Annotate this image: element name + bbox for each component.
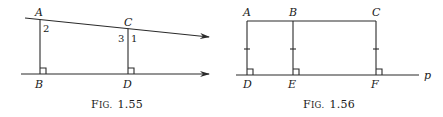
point-label-d: D — [122, 78, 132, 91]
right-angle-mark-d — [247, 69, 253, 75]
angle-label-3: 3 — [118, 33, 124, 44]
right-angle-mark-b — [40, 68, 46, 74]
point-label-f: F — [370, 78, 379, 91]
right-angle-mark-e — [293, 69, 299, 75]
figure-caption-1-56: FIG.1.56 — [303, 98, 355, 111]
figure-1-55: A 2 C 3 1 B D FIG.1.55 — [21, 6, 209, 111]
angle-label-2: 2 — [43, 23, 49, 34]
figure-caption-1-55: FIG.1.55 — [91, 98, 143, 111]
point-label-c: C — [372, 6, 381, 19]
line-label-p: p — [424, 69, 431, 82]
point-label-b: B — [288, 6, 297, 19]
point-label-a: A — [242, 6, 251, 19]
point-label-b: B — [34, 78, 43, 91]
point-label-e: E — [287, 78, 296, 91]
right-angle-mark-f — [376, 69, 382, 75]
transversal-line-ac — [25, 18, 209, 37]
point-label-d: D — [242, 78, 252, 91]
right-angle-mark-d — [128, 68, 134, 74]
point-label-a: A — [34, 6, 43, 19]
figure-1-56: A B C D E F p FIG.1.56 — [236, 6, 431, 111]
figures-canvas: A 2 C 3 1 B D FIG.1.55 A B C D E F p FIG… — [0, 0, 443, 117]
angle-label-1: 1 — [131, 33, 137, 44]
point-label-c: C — [124, 16, 133, 29]
